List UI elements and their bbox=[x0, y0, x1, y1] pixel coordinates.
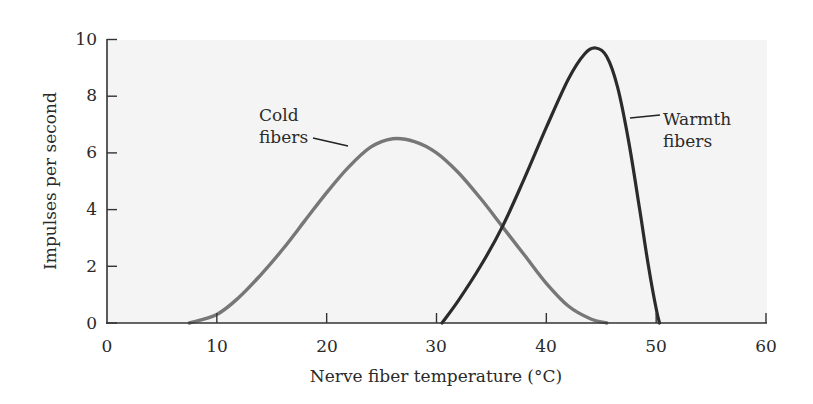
y-tick-label: 2 bbox=[86, 256, 97, 276]
plot-background bbox=[107, 40, 767, 323]
y-axis-title: Impulses per second bbox=[40, 92, 60, 270]
warmth-fibers-label-line2: fibers bbox=[663, 131, 712, 151]
x-tick-label: 50 bbox=[645, 336, 667, 356]
x-axis-title: Nerve fiber temperature (°C) bbox=[310, 366, 562, 386]
x-tick-label: 0 bbox=[102, 336, 113, 356]
x-tick-label: 60 bbox=[755, 336, 777, 356]
x-tick-label: 30 bbox=[425, 336, 447, 356]
chart: 0 2 4 6 8 10 0 10 20 30 40 50 60 Nerve f… bbox=[0, 0, 813, 404]
x-tick-label: 10 bbox=[206, 336, 228, 356]
y-tick-label: 0 bbox=[86, 313, 97, 333]
warmth-fibers-label-line1: Warmth bbox=[663, 109, 731, 129]
y-tick-label: 8 bbox=[86, 85, 97, 105]
cold-fibers-label-line1: Cold bbox=[259, 105, 299, 125]
x-tick-label: 40 bbox=[535, 336, 557, 356]
y-tick-label: 4 bbox=[86, 199, 97, 219]
cold-fibers-label-line2: fibers bbox=[259, 127, 308, 147]
y-tick-label: 10 bbox=[75, 29, 97, 49]
y-tick-label: 6 bbox=[86, 142, 97, 162]
x-tick-label: 20 bbox=[316, 336, 338, 356]
